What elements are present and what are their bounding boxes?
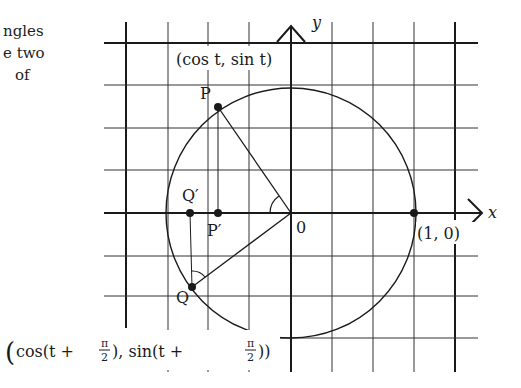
points — [186, 103, 418, 291]
point-P-prime — [214, 209, 222, 217]
point-one-zero — [410, 209, 418, 217]
q-label-frac2-den: 2 — [247, 351, 254, 364]
q-label-open-paren: ( — [5, 337, 15, 367]
segment-OP — [218, 107, 291, 213]
origin-label: 0 — [296, 218, 306, 237]
angle-arc-at-origin-icon — [270, 196, 279, 213]
q-label-close: )) — [258, 342, 270, 361]
point-P-label: P — [200, 84, 211, 103]
q-label-cos-part: cos(t + — [16, 342, 74, 361]
y-axis-label: y — [311, 13, 322, 32]
segment-QQ-prime — [190, 213, 192, 287]
q-label-frac2-num: π — [247, 337, 254, 350]
point-Q-prime-label: Q′ — [182, 186, 199, 205]
point-P-coordinate-label: (cos t, sin t) — [176, 50, 272, 69]
point-Q-prime — [186, 209, 194, 217]
point-P — [214, 103, 222, 111]
radius-segments — [192, 107, 291, 287]
x-axis-label: x — [488, 203, 497, 222]
q-label-frac1-num: π — [101, 337, 108, 350]
point-Q-label: Q — [176, 288, 189, 307]
point-P-prime-label: P′ — [207, 221, 222, 240]
q-label-mid: ), sin(t + — [112, 342, 183, 361]
point-one-zero-label: (1, 0) — [417, 224, 460, 243]
angle-arc-at-Q-icon — [192, 271, 205, 277]
unit-circle-diagram: y x 0 (cos t, sin t) P P′ Q′ Q (1, 0) ( … — [0, 0, 521, 388]
point-Q — [188, 283, 196, 291]
q-label-frac1-den: 2 — [101, 351, 108, 364]
